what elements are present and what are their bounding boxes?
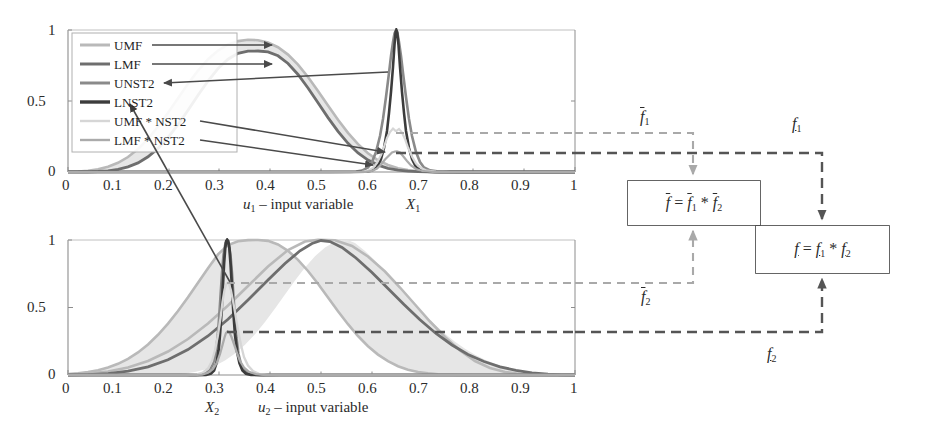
top-xtick-1: 1 — [570, 177, 578, 194]
top-xtick-01: 0.1 — [103, 177, 122, 194]
f1-upper-label: f1 — [640, 108, 649, 127]
bottom-input-marker-sub: 2 — [214, 406, 219, 417]
top-input-marker-var: X — [406, 196, 415, 212]
top-xaxis-label: u1 – input variable — [243, 196, 353, 214]
top-xtick-07: 0.7 — [409, 177, 428, 194]
bottom-xtick-03: 0.3 — [205, 380, 224, 397]
bottom-ytick-0: 0 — [48, 366, 56, 383]
legend-item-lnst2: LNST2 — [114, 95, 153, 111]
top-ytick-0: 0 — [48, 163, 56, 180]
f2-upper-route — [575, 231, 693, 283]
upper-formula-box: f = f1 * f2 — [628, 181, 760, 225]
top-input-marker-sub: 1 — [415, 203, 420, 214]
bottom-xtick-04: 0.4 — [256, 380, 275, 397]
legend-item-umf: UMF — [114, 38, 142, 54]
top-xaxis-rest: – input variable — [256, 196, 354, 212]
bottom-xaxis-rest: – input variable — [271, 399, 369, 415]
top-ytick-05: 0.5 — [27, 93, 46, 110]
top-input-marker: X1 — [406, 196, 420, 214]
top-xaxis-var: u — [243, 196, 251, 212]
top-xtick-08: 0.8 — [460, 177, 479, 194]
bottom-xaxis-label: u2 – input variable — [258, 399, 368, 417]
bottom-ytick-1: 1 — [48, 232, 56, 249]
figure-canvas: 1 0.5 0 0 0.1 0.2 0.3 0.4 0.5 0.6 0.7 0.… — [0, 0, 936, 443]
top-xtick-03: 0.3 — [205, 177, 224, 194]
top-xtick-05: 0.5 — [307, 177, 326, 194]
top-output-levels — [396, 133, 575, 153]
bottom-xtick-02: 0.2 — [154, 380, 173, 397]
bottom-ytick-05: 0.5 — [27, 299, 46, 316]
lower-formula-box: f = f1 * f2 — [756, 226, 889, 273]
bottom-xtick-01: 0.1 — [103, 380, 122, 397]
lower-formula-text: f = f1 * f2 — [794, 240, 850, 259]
upper-formula-text: f = f1 * f2 — [666, 194, 722, 213]
top-xtick-0: 0 — [62, 177, 70, 194]
top-xtick-06: 0.6 — [358, 177, 377, 194]
bottom-xtick-05: 0.5 — [307, 380, 326, 397]
f2-lower-label: f2 — [767, 345, 776, 364]
f2-lower-route — [575, 279, 822, 332]
legend-item-umf-nst2: UMF * NST2 — [114, 114, 186, 130]
f2-upper-label: f2 — [641, 288, 650, 307]
bottom-xtick-1: 1 — [570, 380, 578, 397]
top-xtick-02: 0.2 — [154, 177, 173, 194]
legend-item-unst2: UNST2 — [114, 76, 154, 92]
bottom-fou-band — [68, 240, 575, 375]
bottom-input-marker-var: X — [205, 399, 214, 415]
top-ytick-1: 1 — [48, 22, 56, 39]
bottom-xaxis-var: u — [258, 399, 266, 415]
legend-item-lmf-nst2: LMF * NST2 — [114, 133, 185, 149]
bottom-input-marker: X2 — [205, 399, 219, 417]
bottom-plot-curves — [68, 240, 575, 375]
bottom-xtick-08: 0.8 — [460, 380, 479, 397]
bottom-xtick-07: 0.7 — [409, 380, 428, 397]
top-xtick-04: 0.4 — [256, 177, 275, 194]
legend-item-lmf: LMF — [114, 57, 141, 73]
bottom-xtick-09: 0.9 — [511, 380, 530, 397]
bottom-xtick-06: 0.6 — [358, 380, 377, 397]
top-xtick-09: 0.9 — [511, 177, 530, 194]
bottom-xtick-0: 0 — [62, 380, 70, 397]
f1-lower-label: f1 — [792, 115, 801, 134]
